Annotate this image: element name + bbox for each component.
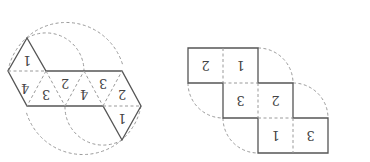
label-top-triangle: 1 xyxy=(23,53,31,68)
label-strip-3: 4 xyxy=(80,87,88,102)
left-net: 1 4 3 2 4 3 2 1 xyxy=(8,22,141,154)
square-label-r2c0: 1 xyxy=(271,128,279,143)
label-strip-0: 4 xyxy=(21,81,29,96)
label-strip-2: 2 xyxy=(61,76,69,91)
square-label-r1c1: 2 xyxy=(271,93,279,108)
square-label-r1c0: 3 xyxy=(236,93,244,108)
right-net: 2 1 3 2 1 3 xyxy=(188,48,328,153)
square-label-r2c1: 3 xyxy=(306,128,314,143)
label-strip-1: 3 xyxy=(42,87,50,102)
square-label-r0c0: 2 xyxy=(201,58,209,73)
arc-upper-1 xyxy=(258,48,293,83)
arc-lower-1 xyxy=(188,83,223,118)
label-strip-4: 3 xyxy=(99,76,107,91)
arc-lower-2 xyxy=(223,118,258,153)
label-strip-5: 2 xyxy=(118,87,126,102)
diagram-canvas: 1 4 3 2 4 3 2 1 2 1 3 2 1 3 xyxy=(0,0,370,162)
label-bottom-triangle: 1 xyxy=(118,111,126,126)
square-label-r0c1: 1 xyxy=(236,58,244,73)
arc-upper-2 xyxy=(293,83,328,118)
